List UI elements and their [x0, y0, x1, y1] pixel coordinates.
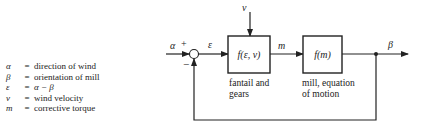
intermediate-label: m [278, 40, 285, 51]
block1-function: f(ε, v) [238, 49, 261, 61]
block1-caption-line2: gears [229, 89, 249, 99]
input-label: α [170, 40, 176, 51]
block1-caption-line1: fantail and [229, 78, 270, 88]
plus-sign: + [181, 38, 187, 49]
block-diagram: α + − ε v f(ε, v) fantail and gears m f(… [0, 0, 422, 128]
output-label: β [387, 39, 393, 50]
block2-caption-line1: mill, equation [302, 78, 355, 88]
summing-junction [190, 50, 199, 59]
block2-caption-line2: of motion [302, 89, 339, 99]
disturbance-label: v [242, 2, 247, 13]
block2-function: f(m) [314, 49, 331, 61]
error-label: ε [208, 39, 212, 50]
minus-sign: − [183, 58, 189, 70]
